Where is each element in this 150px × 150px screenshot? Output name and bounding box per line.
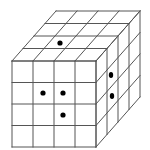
dot-front [60,90,65,95]
dot-front [40,90,45,95]
cube-diagram [0,0,150,150]
right-face [96,11,140,147]
dot-front [60,112,65,117]
dots-layer [40,40,114,117]
front-face [12,61,96,147]
dot-right [109,72,113,78]
dot-right [110,93,114,99]
cube-svg [0,0,150,150]
dot-top [57,40,62,45]
top-face [12,11,140,61]
